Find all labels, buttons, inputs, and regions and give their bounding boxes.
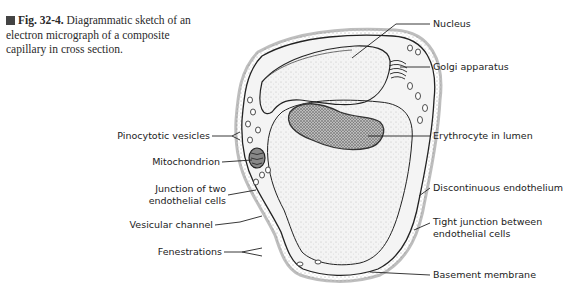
label-tight-junction: Tight junction between endothelial cells bbox=[433, 216, 542, 240]
label-discontinuous-endothelium: Discontinuous endothelium bbox=[433, 182, 563, 194]
label-junction-line1: Junction of two bbox=[130, 183, 226, 195]
mitochondrion-shape bbox=[249, 148, 265, 168]
label-junction-two-cells: Junction of two endothelial cells bbox=[130, 183, 226, 207]
label-nucleus: Nucleus bbox=[433, 18, 471, 30]
label-junction-line2: endothelial cells bbox=[130, 195, 226, 207]
label-tight-line1: Tight junction between bbox=[433, 216, 542, 228]
label-tight-line2: endothelial cells bbox=[433, 228, 542, 240]
capillary-diagram bbox=[0, 0, 564, 289]
label-erythrocyte: Erythrocyte in lumen bbox=[433, 130, 533, 142]
label-vesicular-channel: Vesicular channel bbox=[110, 219, 213, 231]
label-golgi-apparatus: Golgi apparatus bbox=[433, 61, 509, 73]
label-basement-membrane: Basement membrane bbox=[433, 269, 536, 281]
label-pinocytotic-vesicles: Pinocytotic vesicles bbox=[110, 130, 210, 142]
label-fenestrations: Fenestrations bbox=[130, 246, 222, 258]
label-mitochondrion: Mitochondrion bbox=[140, 156, 220, 168]
